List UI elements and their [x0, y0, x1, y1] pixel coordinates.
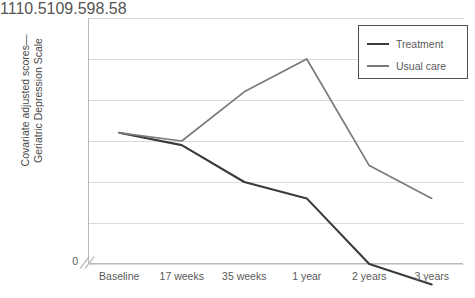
- gridline: [89, 264, 464, 265]
- legend-swatch-icon: [367, 43, 389, 45]
- y-axis-zero-label: 0: [52, 255, 78, 267]
- series-line: [119, 133, 432, 285]
- series-line: [119, 59, 432, 198]
- chart-legend: Treatment Usual care: [358, 25, 468, 79]
- y-axis-tick-label: 9: [87, 0, 96, 17]
- legend-item-usual-care: Usual care: [367, 55, 467, 77]
- legend-item-treatment: Treatment: [367, 33, 467, 55]
- y-axis-tick-label: 9.5: [64, 0, 86, 17]
- legend-swatch-icon: [367, 65, 389, 67]
- legend-label: Treatment: [396, 39, 443, 50]
- y-axis-tick-label: 10: [47, 0, 65, 17]
- x-axis-tick-label: Baseline: [99, 270, 139, 282]
- x-axis-tick-label: 1 year: [292, 270, 321, 282]
- x-axis-tick-label: 35 weeks: [222, 270, 266, 282]
- x-axis-tick-label: 2 years: [352, 270, 386, 282]
- x-axis-tick-label: 3 years: [415, 270, 449, 282]
- x-axis-tick-label: 17 weeks: [160, 270, 204, 282]
- y-axis-tick-label: 10.5: [15, 0, 46, 17]
- legend-label: Usual care: [396, 61, 446, 72]
- y-axis-tick-label: 8.5: [96, 0, 118, 17]
- chart-container: Covariate adjusted scores— Geriatric Dep…: [0, 0, 475, 298]
- y-axis-tick-label: 8: [118, 0, 127, 17]
- y-axis-tick-label: 11: [0, 0, 15, 17]
